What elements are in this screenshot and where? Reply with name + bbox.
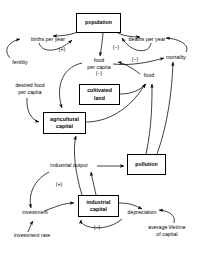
sign-investment-plus: (+) [53, 182, 65, 187]
sign-deaths-minus: (−) [110, 45, 122, 50]
node-pollution-label: pollution [135, 161, 157, 168]
label-desired-food-line2: per capita [18, 89, 41, 95]
label-fertility: fertility [4, 59, 36, 66]
node-agricultural-capital-label-2: capital [56, 123, 73, 130]
node-industrial-capital-label-2: capital [90, 206, 107, 213]
edge-indoutput-investment [30, 172, 49, 208]
node-cultivated-land-label: cultivated [87, 87, 112, 94]
node-agricultural-capital-label: agricultural [50, 116, 79, 123]
node-population[interactable]: population [76, 13, 121, 33]
label-investment-rate: investment rate [5, 232, 59, 239]
label-food-per-capita-line2: per capita [87, 64, 110, 70]
label-food-per-capita: food per capita [79, 57, 119, 71]
label-industrial-output: industrial output [41, 162, 97, 169]
edge-desiredfood-agcapital [27, 98, 39, 122]
edge-population-foodpercapita [100, 33, 103, 56]
node-cultivated-land-label-2: land [94, 95, 105, 102]
node-agricultural-capital[interactable]: agricultural capital [43, 112, 86, 134]
edge-indcapital-indoutput [91, 172, 96, 195]
label-investment: investment [13, 209, 57, 216]
node-population-label: population [85, 19, 112, 26]
node-cultivated-land[interactable]: cultivated land [79, 84, 120, 105]
label-births-per-year: births per year [24, 36, 72, 43]
label-desired-food-line1: desired food [15, 82, 44, 88]
node-pollution[interactable]: pollution [127, 154, 166, 175]
node-industrial-capital[interactable]: industrial capital [78, 195, 119, 217]
label-food: food [137, 72, 161, 79]
label-avg-lifetime-line2: of capital [156, 231, 177, 237]
label-deaths-per-year: deaths per year [122, 36, 172, 43]
causal-loop-diagram: population cultivated land agricultural … [0, 0, 198, 255]
edge-fertility-births [7, 39, 20, 58]
sign-mortality-minus: (−) [129, 57, 141, 62]
sign-food-per-capita-minus: (−) [93, 71, 105, 76]
sign-depreciation-minus: (−) [91, 225, 103, 230]
label-avg-lifetime-line1: average lifetime [148, 224, 185, 230]
label-mortality: mortality [157, 54, 195, 61]
label-food-per-capita-line1: food [94, 57, 104, 63]
edge-investmentrate-investment [28, 221, 33, 232]
node-industrial-capital-label: industrial [87, 199, 111, 206]
label-desired-food-per-capita: desired food per capita [4, 82, 56, 96]
label-depreciation: depreciation [120, 209, 164, 216]
label-average-lifetime-of-capital: average lifetime of capital [138, 224, 196, 238]
sign-births-plus: (+) [56, 47, 68, 52]
edge-pollution-food [146, 84, 152, 154]
